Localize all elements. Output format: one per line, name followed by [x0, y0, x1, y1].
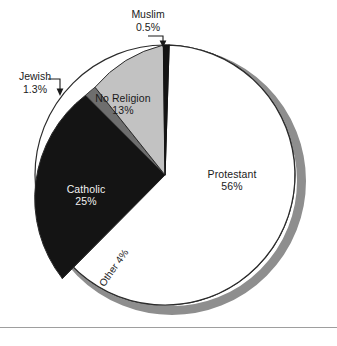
callout-label-muslim-value: 0.5% — [136, 21, 160, 33]
pie-chart-canvas — [0, 0, 337, 346]
page-divider-rule — [0, 327, 337, 328]
callout-label-jewish-name: Jewish — [19, 70, 51, 82]
callout-label-muslim-name: Muslim — [131, 8, 164, 20]
callout-label-jewish-value: 1.3% — [23, 83, 47, 95]
pie-chart: Protestant 56% Catholic 25% No Religion … — [0, 0, 337, 346]
callout-label-jewish: Jewish 1.3% — [4, 70, 66, 95]
callout-label-muslim: Muslim 0.5% — [110, 8, 186, 33]
